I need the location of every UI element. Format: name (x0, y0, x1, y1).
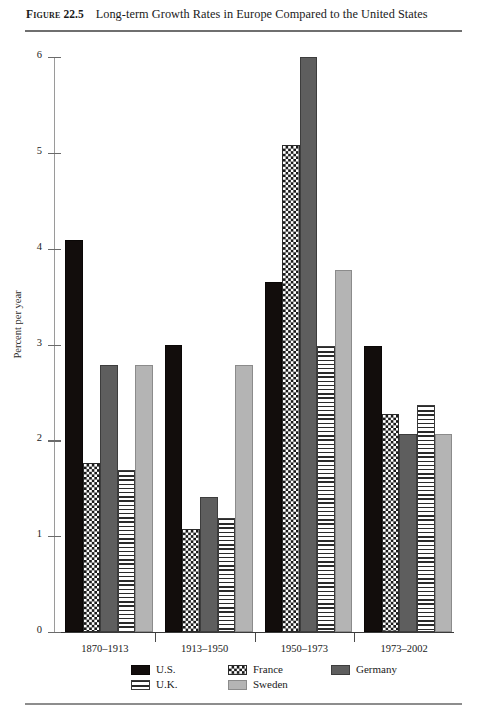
y-axis-tick-label: 6 (18, 49, 42, 60)
figure-caption-number: 22.5 (63, 8, 83, 20)
x-axis-category-1950-1973: 1950–1973 (255, 643, 355, 654)
bar-france-1870-1913 (83, 463, 101, 632)
swatch-germany (331, 665, 350, 675)
bar-chart: Percent per year 0123456 1870–19131913–1… (0, 45, 482, 645)
figure-caption-title: Long-term Growth Rates in Europe Compare… (96, 7, 428, 21)
bar-sweden-1913-1950 (235, 365, 253, 632)
bar-uk-1870-1913 (118, 470, 136, 632)
footer-divider-rule (25, 703, 462, 705)
figure-caption: Figure 22.5 Long-term Growth Rates in Eu… (26, 7, 428, 22)
x-axis-category-1913-1950: 1913–1950 (155, 643, 255, 654)
y-axis-tick-label: 5 (18, 145, 42, 156)
y-axis-tick-mark (48, 632, 61, 633)
legend-label: U.K. (156, 678, 177, 690)
y-axis-tick-label: 2 (18, 432, 42, 443)
bar-france-1973-2002 (382, 414, 400, 633)
legend-label: France (253, 663, 283, 675)
y-axis-tick-label: 1 (18, 528, 42, 539)
swatch-us (131, 665, 150, 675)
bar-sweden-1973-2002 (435, 434, 453, 632)
y-axis-tick-mark (48, 153, 61, 154)
bar-us-1913-1950 (165, 345, 183, 633)
y-axis-tick-mark (48, 536, 61, 537)
bar-uk-1973-2002 (417, 405, 435, 632)
bar-us-1870-1913 (65, 240, 83, 632)
y-axis-tick-label: 3 (18, 337, 42, 348)
chart-legend: U.S.U.K.FranceSwedenGermany (0, 663, 482, 699)
y-axis-tick-mark (48, 249, 61, 250)
bar-sweden-1950-1973 (335, 270, 353, 632)
bar-france-1913-1950 (182, 529, 200, 633)
x-axis-tick-mark (155, 633, 156, 642)
y-axis-tick-label: 0 (18, 624, 42, 635)
bar-germany-1913-1950 (200, 497, 218, 632)
legend-label: Sweden (253, 678, 288, 690)
bar-us-1950-1973 (265, 282, 283, 632)
x-axis-category-1870-1913: 1870–1913 (55, 643, 155, 654)
figure-header: Figure 22.5 Long-term Growth Rates in Eu… (0, 0, 482, 40)
bar-sweden-1870-1913 (135, 365, 153, 632)
caption-divider-rule (25, 30, 462, 32)
swatch-uk (131, 680, 150, 690)
x-axis-category-1973-2002: 1973–2002 (354, 643, 454, 654)
legend-label: Germany (356, 663, 397, 675)
x-axis-tick-mark (255, 633, 256, 642)
bar-france-1950-1973 (282, 145, 300, 632)
swatch-france (228, 665, 247, 675)
swatch-sweden (228, 680, 247, 690)
y-axis-tick-mark (48, 345, 61, 346)
bar-germany-1950-1973 (300, 57, 318, 632)
bar-germany-1870-1913 (100, 365, 118, 632)
legend-label: U.S. (156, 663, 176, 675)
bar-uk-1950-1973 (317, 346, 335, 632)
y-axis-tick-mark (48, 440, 61, 441)
y-axis-title: Percent per year (12, 265, 23, 385)
bar-germany-1973-2002 (399, 434, 417, 632)
bar-us-1973-2002 (364, 346, 382, 632)
bar-uk-1913-1950 (218, 518, 236, 632)
y-axis-tick-label: 4 (18, 241, 42, 252)
figure-caption-label: Figure (26, 8, 60, 20)
x-axis-tick-mark (354, 633, 355, 642)
y-axis-tick-mark (48, 57, 61, 58)
